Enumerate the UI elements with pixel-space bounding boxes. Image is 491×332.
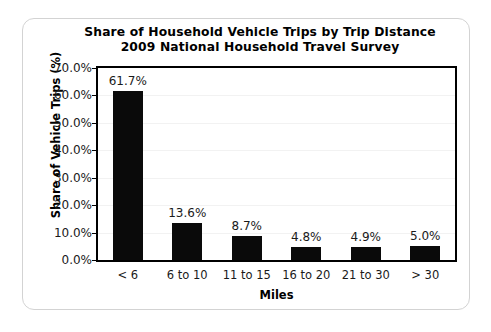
bar-value-label: 5.0% <box>410 229 441 243</box>
y-axis-tick-label: 10.0% <box>32 226 92 240</box>
gridline <box>98 150 455 151</box>
plot-inner <box>98 68 455 260</box>
x-axis-tick-label: 16 to 20 <box>282 268 330 282</box>
x-axis-tick-label: 6 to 10 <box>167 268 208 282</box>
chart-subtitle-line-2: 2009 National Household Travel Survey <box>60 40 460 55</box>
y-axis-tick-mark <box>92 205 96 206</box>
bar[interactable] <box>291 247 321 260</box>
y-axis-tick-label: 40.0% <box>32 143 92 157</box>
y-axis-tick-label: 0.0% <box>32 253 92 267</box>
y-axis-tick-label: 60.0% <box>32 88 92 102</box>
x-axis-tick-label: > 30 <box>411 268 439 282</box>
gridline <box>98 205 455 206</box>
y-axis-tick-label: 20.0% <box>32 198 92 212</box>
gridline <box>98 123 455 124</box>
bar[interactable] <box>410 246 440 260</box>
y-axis-tick-mark <box>92 178 96 179</box>
y-axis-tick-label: 30.0% <box>32 171 92 185</box>
bar-value-label: 61.7% <box>109 74 147 88</box>
x-axis-tick-label: < 6 <box>117 268 138 282</box>
bar[interactable] <box>113 91 143 260</box>
bar-value-label: 13.6% <box>168 206 206 220</box>
y-axis-tick-mark <box>92 95 96 96</box>
chart-title: Share of Household Vehicle Trips by Trip… <box>60 25 460 55</box>
gridline <box>98 178 455 179</box>
chart-figure: Share of Household Vehicle Trips by Trip… <box>0 0 491 332</box>
x-axis-tick-label: 11 to 15 <box>223 268 271 282</box>
y-axis-tick-label: 50.0% <box>32 116 92 130</box>
chart-title-line-1: Share of Household Vehicle Trips by Trip… <box>60 25 460 40</box>
bar-value-label: 4.8% <box>291 230 322 244</box>
gridline <box>98 233 455 234</box>
y-axis-tick-labels: 0.0%10.0%20.0%30.0%40.0%50.0%60.0%70.0% <box>30 66 92 262</box>
plot-area <box>96 66 457 262</box>
y-axis-tick-mark <box>92 123 96 124</box>
y-axis-tick-mark <box>92 150 96 151</box>
bar[interactable] <box>172 223 202 260</box>
x-axis-tick-label: 21 to 30 <box>342 268 390 282</box>
bar-value-label: 4.9% <box>351 230 382 244</box>
bar[interactable] <box>351 247 381 260</box>
y-axis-tick-mark <box>92 233 96 234</box>
bar[interactable] <box>232 236 262 260</box>
y-axis-tick-label: 70.0% <box>32 61 92 75</box>
y-axis-tick-mark <box>92 68 96 69</box>
gridline <box>98 95 455 96</box>
bar-value-label: 8.7% <box>232 219 263 233</box>
y-axis-tick-mark <box>92 260 96 261</box>
x-axis-title: Miles <box>96 288 457 302</box>
